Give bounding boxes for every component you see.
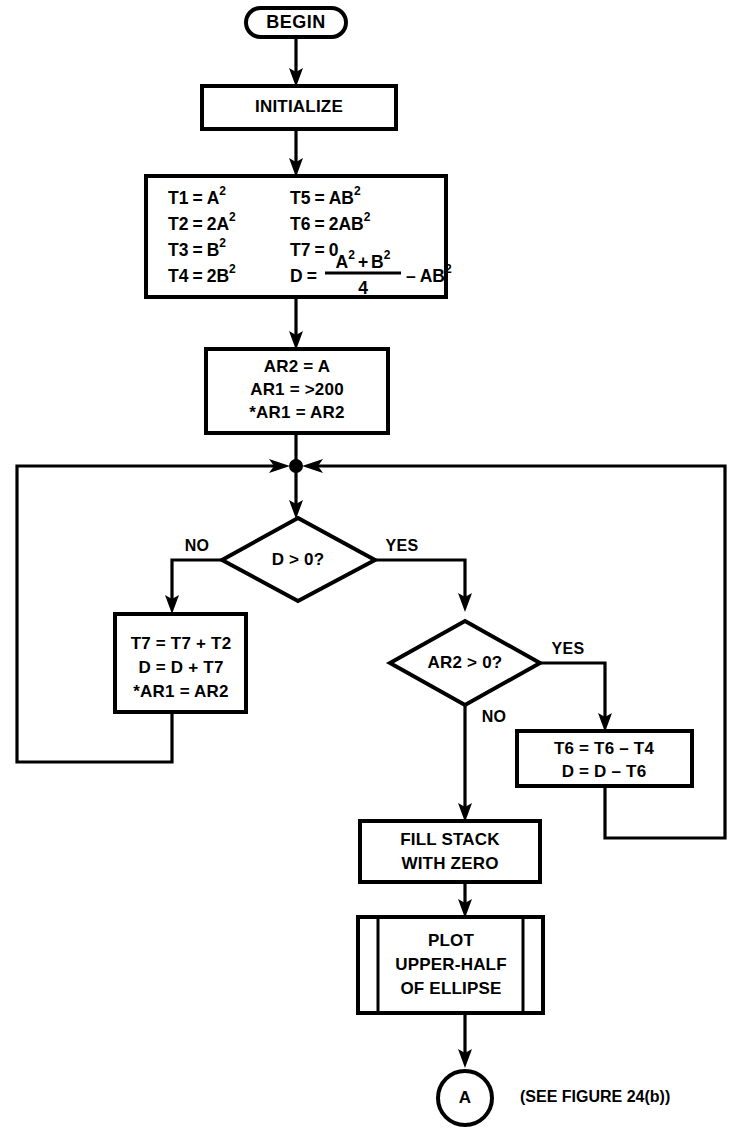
update-t6-line-1: T6 = T6 – T4 [554,739,655,758]
assignment-row-t3: T3=B2 [168,236,226,259]
fill-stack-line-1: FILL STACK [400,830,500,849]
update-t6-line-2: D = D – T6 [562,762,647,781]
decision-d-yes-label: YES [386,537,419,554]
ar-setup-line-2: AR1 = >200 [250,380,344,399]
decision-ar2-label: AR2 > 0? [428,653,503,672]
decision-ar2-yes-label: YES [552,640,585,657]
update-t7-line-1: T7 = T7 + T2 [131,634,232,653]
decision-ar2-no-label: NO [482,708,507,725]
plot-line-3: OF ELLIPSE [400,979,501,998]
assignment-row-t4: T4=2B2 [168,262,236,285]
figure-note: (SEE FIGURE 24(b)) [520,1088,670,1105]
assignment-row-t1: T1=A2 [168,184,226,207]
fill-stack-line-2: WITH ZERO [401,854,498,873]
assignment-row-t6: T6=2AB2 [290,210,371,233]
fraction-denominator: 4 [358,278,368,298]
flowchart-canvas: BEGIN INITIALIZE T1=A2 T2=2A2 T3=B2 T4=2… [0,0,742,1146]
decision-d-no-label: NO [185,537,210,554]
flowchart-diagram: BEGIN INITIALIZE T1=A2 T2=2A2 T3=B2 T4=2… [0,0,742,1146]
plot-line-2: UPPER-HALF [395,955,507,974]
assignment-row-t2: T2=2A2 [168,210,236,233]
update-t7-line-3: *AR1 = AR2 [133,682,228,701]
connector-decision-ar2-yes [540,663,605,722]
update-t7-line-2: D = D + T7 [138,658,223,677]
ar-setup-line-3: *AR1 = AR2 [249,403,344,422]
connector-decision-d-yes [375,560,465,602]
node-begin-label: BEGIN [266,12,326,32]
ar-setup-line-1: AR2 = A [264,357,330,376]
node-initialize-label: INITIALIZE [255,97,343,116]
plot-line-1: PLOT [428,931,475,950]
decision-d-label: D > 0? [272,550,325,569]
assignment-row-t7: T7=0 [290,240,339,260]
junction-dot [289,459,303,473]
connector-decision-d-no [172,560,222,605]
fraction-numerator: A2+B2 [336,248,391,271]
connector-a-label: A [459,1088,471,1107]
